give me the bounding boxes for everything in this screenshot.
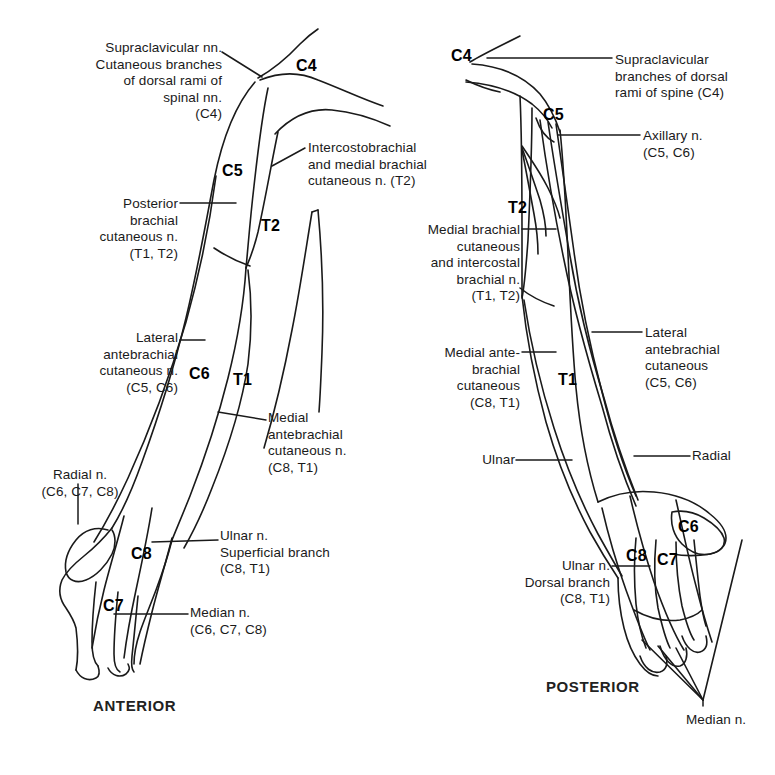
anterior-axilla-curve — [275, 110, 390, 134]
posterior-label-medial-antebrachial-cutaneous: Medial ante- brachial cutaneous (C8, T1) — [400, 345, 520, 411]
anterior-dermatome-t1: T1 — [233, 371, 252, 389]
anterior-label-medial-antebrachial-cutaneous-nerve: Medial antebrachial cutaneous n. (C8, T1… — [268, 410, 398, 476]
posterior-medial-arm-border — [520, 96, 522, 296]
posterior-dermatome-c6: C6 — [678, 518, 699, 536]
anterior-label-intercostobrachial-nerve: Intercostobrachial and medial brachial c… — [308, 140, 488, 190]
posterior-finger-line-3 — [676, 542, 694, 640]
anterior-label-median-nerve: Median n. (C6, C7, C8) — [190, 605, 320, 638]
posterior-fingertip-1 — [640, 656, 667, 672]
leader-intercostobrachial — [272, 148, 305, 166]
posterior-label-lateral-antebrachial-cutaneous: Lateral antebrachial cutaneous (C5, C6) — [645, 325, 770, 391]
posterior-label-median-nerve: Median n. — [686, 712, 775, 729]
posterior-lateral-arm-border — [560, 130, 598, 502]
anterior-view-label: ANTERIOR — [93, 697, 176, 714]
anterior-dermatome-c7: C7 — [103, 597, 124, 615]
posterior-dermatome-c8: C8 — [626, 547, 647, 565]
anterior-lateral-arm-border — [112, 82, 255, 528]
posterior-label-medial-brachial-cutaneous-intercostal: Medial brachial cutaneous and intercosta… — [385, 222, 520, 305]
posterior-dermatome-c5: C5 — [543, 106, 564, 124]
posterior-label-supraclavicular-branches-dorsal-rami: Supraclavicular branches of dorsal rami … — [615, 52, 775, 102]
posterior-axilla-wedge-2 — [522, 148, 546, 236]
anterior-elbow-crease — [214, 248, 250, 266]
anterior-dermatome-c4: C4 — [296, 57, 317, 75]
posterior-label-axillary-nerve: Axillary n. (C5, C6) — [643, 128, 753, 161]
anterior-axilla-fold — [246, 132, 278, 268]
anterior-label-radial-nerve: Radial n. (C6, C7, C8) — [20, 467, 140, 500]
median-nerve-converge-4 — [703, 540, 742, 700]
leader-supraclavicular — [222, 52, 262, 77]
anterior-label-posterior-brachial-cutaneous-nerve: Posterior brachial cutaneous n. (T1, T2) — [48, 196, 178, 262]
posterior-dermatome-c7: C7 — [657, 551, 678, 569]
anterior-finger-tip-join-1 — [76, 666, 99, 680]
posterior-shoulder-lower — [466, 82, 552, 128]
posterior-medial-forearm-border — [522, 296, 618, 578]
anterior-medial-forearm-border — [172, 268, 246, 540]
anterior-medial-stripe-tip — [312, 210, 318, 212]
leader-medial-antebrachial — [218, 412, 266, 420]
median-nerve-converge-1 — [642, 640, 703, 700]
posterior-hand-outline — [598, 491, 726, 555]
posterior-label-ulnar: Ulnar — [440, 452, 515, 469]
posterior-label-ulnar-nerve-dorsal-branch: Ulnar n. Dorsal branch (C8, T1) — [490, 558, 610, 608]
leader-ulnar-superficial — [152, 540, 218, 542]
anterior-dermatome-c8: C8 — [131, 545, 152, 563]
figure-canvas: Supraclavicular nn. Cutaneous branches o… — [0, 0, 775, 775]
anterior-finger-tip-join-2 — [108, 664, 129, 676]
posterior-dermatome-t1: T1 — [558, 371, 577, 389]
posterior-label-radial: Radial — [692, 448, 762, 465]
posterior-stripe-2 — [548, 122, 638, 500]
posterior-hand-ulnar-border — [618, 578, 658, 676]
posterior-stripe-1 — [556, 124, 636, 496]
anterior-medial-stripe-outer — [318, 210, 323, 412]
anterior-dermatome-t2: T2 — [261, 217, 280, 235]
posterior-hand-derm-line-b — [630, 496, 684, 650]
posterior-dermatome-c4: C4 — [451, 47, 472, 65]
anterior-hand-derm-line-b — [124, 508, 152, 658]
posterior-dermatome-t2: T2 — [508, 199, 527, 217]
median-nerve-converge-3 — [676, 648, 703, 700]
anterior-label-supraclavicular-nerves: Supraclavicular nn. Cutaneous branches o… — [52, 40, 222, 123]
anterior-label-lateral-antebrachial-cutaneous-nerve: Lateral antebrachial cutaneous n. (C5, C… — [48, 330, 178, 396]
anterior-medial-arm-border — [246, 88, 268, 268]
anterior-dermatome-c6: C6 — [189, 365, 210, 383]
anterior-label-ulnar-nerve-superficial-branch: Ulnar n. Superficial branch (C8, T1) — [220, 528, 370, 578]
median-nerve-converge-2 — [658, 646, 703, 700]
posterior-view-label: POSTERIOR — [546, 678, 640, 695]
anterior-shoulder-curve — [260, 74, 383, 106]
anterior-dermatome-c5: C5 — [222, 162, 243, 180]
